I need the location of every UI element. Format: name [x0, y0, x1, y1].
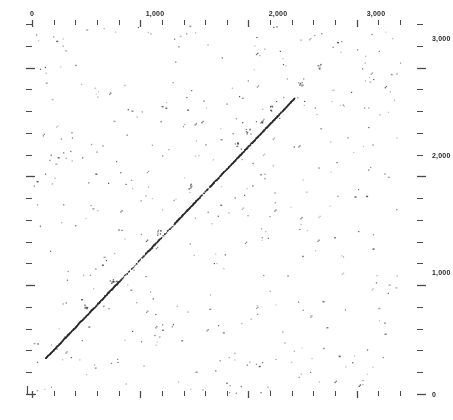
x-axis-tick-label: 0: [30, 10, 34, 17]
y-axis-tick-label: 1,000: [432, 269, 451, 276]
dot-plot-figure: 01,0002,0003,000 3,0002,0001,0000: [0, 0, 453, 420]
y-axis-tick-label: 0: [432, 391, 436, 398]
x-axis-tick-label: 1,000: [146, 10, 165, 17]
dot-plot-canvas: [0, 0, 453, 420]
y-axis-tick-label: 2,000: [432, 152, 451, 159]
y-axis-tick-label: 3,000: [432, 35, 451, 42]
x-axis-tick-label: 2,000: [269, 10, 288, 17]
x-axis-tick-label: 3,000: [367, 10, 386, 17]
